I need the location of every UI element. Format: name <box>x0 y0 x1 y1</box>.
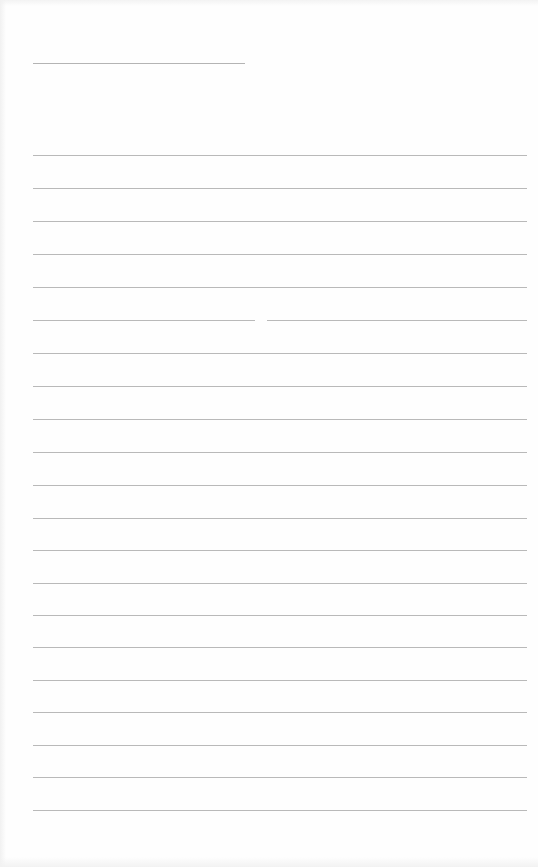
lined-paper-page <box>0 0 538 867</box>
scan-edge-left <box>0 0 6 867</box>
ruled-line <box>33 485 527 486</box>
header-name-line <box>33 63 245 64</box>
ruled-line <box>33 777 527 778</box>
ruled-line <box>33 518 527 519</box>
ruled-line <box>33 287 527 288</box>
scan-edge-bottom <box>0 857 538 867</box>
ruled-line <box>33 615 527 616</box>
ruled-line <box>33 419 527 420</box>
ruled-line <box>33 647 527 648</box>
ruled-line <box>33 320 527 321</box>
ruled-line <box>33 452 527 453</box>
ruled-line <box>33 583 527 584</box>
ruled-line <box>33 712 527 713</box>
ruled-line <box>33 254 527 255</box>
ruled-line <box>33 745 527 746</box>
scan-edge-top <box>0 0 538 6</box>
ruled-line <box>33 188 527 189</box>
ruled-line <box>33 550 527 551</box>
ruled-line <box>33 155 527 156</box>
ruled-line <box>33 221 527 222</box>
ruled-line <box>33 353 527 354</box>
ruled-line <box>33 810 527 811</box>
ruled-line <box>33 386 527 387</box>
ruled-line <box>33 680 527 681</box>
